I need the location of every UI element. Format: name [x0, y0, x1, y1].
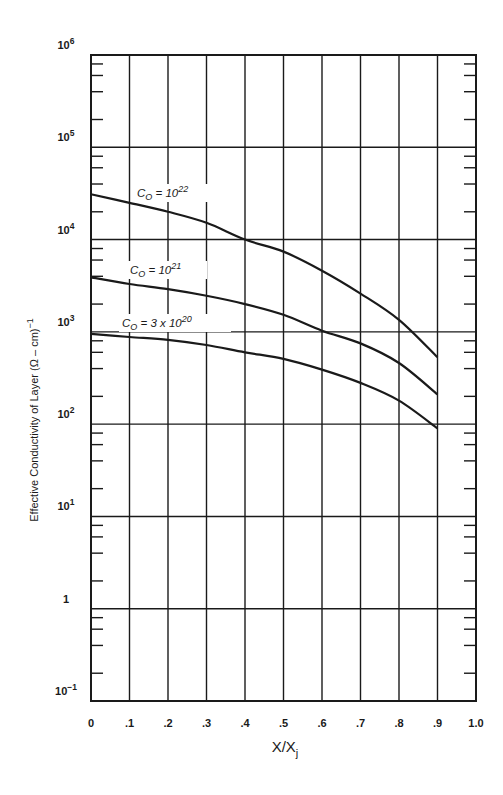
- curve-labels: CO = 1022CO = 1021CO = 3 x 1020: [119, 184, 231, 332]
- x-tick-label: .7: [356, 717, 365, 729]
- x-tick-label: .2: [163, 717, 172, 729]
- y-tick-label: 105: [58, 128, 75, 143]
- x-tick-label: 1.0: [468, 717, 483, 729]
- y-axis-title: Effective Conductivity of Layer (Ω – cm)…: [25, 318, 40, 522]
- x-tick-labels: 0.1.2.3.4.5.6.7.8.91.0: [88, 717, 484, 729]
- x-tick-label: .1: [125, 717, 134, 729]
- x-tick-label: .5: [279, 717, 288, 729]
- series-curve: [91, 334, 438, 428]
- x-tick-label: .9: [433, 717, 442, 729]
- x-axis-title: X/Xj: [272, 738, 299, 759]
- y-tick-label: 104: [58, 221, 75, 236]
- y-tick-label: 1: [63, 593, 69, 605]
- x-tick-label: .8: [394, 717, 403, 729]
- data-curves: [91, 194, 438, 428]
- conductivity-chart: CO = 1022CO = 1021CO = 3 x 1020 10610510…: [0, 0, 503, 795]
- x-tick-label: .4: [240, 717, 250, 729]
- y-tick-label: 106: [58, 36, 75, 51]
- y-tick-labels: 106105104103102101110−1: [55, 36, 77, 697]
- series-curve: [91, 277, 438, 394]
- y-tick-label: 101: [58, 497, 75, 512]
- y-tick-label: 10−1: [55, 682, 77, 697]
- x-tick-label: .6: [317, 717, 326, 729]
- y-tick-label: 102: [58, 405, 75, 420]
- x-tick-label: .3: [202, 717, 211, 729]
- y-tick-label: 103: [58, 313, 75, 328]
- x-tick-label: 0: [88, 717, 94, 729]
